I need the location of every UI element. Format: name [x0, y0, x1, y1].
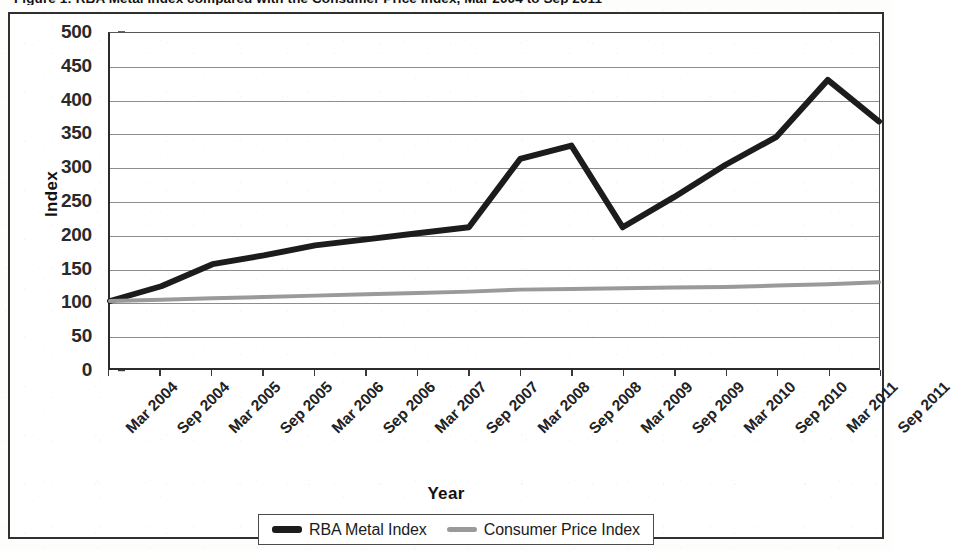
- x-tick-mark: [314, 370, 315, 376]
- x-tick-label: Sep 2007: [483, 378, 543, 438]
- x-tick-label: Mar 2011: [842, 378, 900, 436]
- x-axis: Mar 2004Sep 2004Mar 2005Sep 2005Mar 2006…: [10, 14, 902, 134]
- x-tick-mark: [365, 370, 366, 376]
- x-tick-label: Sep 2006: [380, 378, 440, 438]
- x-tick-label: Mar 2006: [328, 378, 387, 437]
- x-tick-mark: [726, 370, 727, 376]
- y-tick-label: 0: [82, 359, 92, 381]
- y-tick-label: 250: [61, 190, 92, 212]
- x-tick-mark: [829, 370, 830, 376]
- x-tick-label: Mar 2005: [225, 378, 284, 437]
- thin-gray-line-swatch: [447, 527, 477, 532]
- y-tick-label: 200: [61, 224, 92, 246]
- y-tick-label: 50: [71, 325, 92, 347]
- x-tick-label: Sep 2010: [792, 378, 852, 438]
- x-tick-mark: [674, 370, 675, 376]
- x-tick-mark: [623, 370, 624, 376]
- x-tick-mark: [262, 370, 263, 376]
- x-tick-mark: [211, 370, 212, 376]
- chart-legend: RBA Metal IndexConsumer Price Index: [258, 514, 654, 545]
- x-tick-label: Mar 2010: [740, 378, 799, 437]
- legend-entry[interactable]: Consumer Price Index: [447, 521, 640, 539]
- x-tick-mark: [880, 370, 881, 376]
- x-tick-mark: [468, 370, 469, 376]
- x-tick-label: Mar 2009: [637, 378, 696, 437]
- x-tick-label: Mar 2008: [534, 378, 593, 437]
- x-tick-mark: [571, 370, 572, 376]
- figure-caption: Figure 1: RBA Metal Index compared with …: [14, 0, 874, 5]
- x-tick-mark: [159, 370, 160, 376]
- legend-label: Consumer Price Index: [484, 521, 640, 539]
- x-tick-mark: [777, 370, 778, 376]
- y-tick-label: 300: [61, 156, 92, 178]
- x-axis-title: Year: [10, 484, 882, 504]
- y-tick-label: 100: [61, 291, 92, 313]
- x-tick-label: Sep 2004: [174, 378, 234, 438]
- x-tick-label: Sep 2011: [894, 378, 953, 437]
- x-tick-label: Mar 2007: [431, 378, 490, 437]
- y-axis-title: Index: [42, 134, 62, 254]
- x-tick-mark: [108, 370, 109, 376]
- series-line: [110, 282, 879, 301]
- y-tick-label: 150: [61, 258, 92, 280]
- x-tick-mark: [417, 370, 418, 376]
- x-tick-label: Sep 2005: [277, 378, 337, 438]
- chart-frame: 500450400350300250200150100500 Index Mar…: [8, 12, 884, 539]
- x-tick-label: Sep 2009: [689, 378, 749, 438]
- x-tick-label: Sep 2008: [586, 378, 646, 438]
- legend-entry[interactable]: RBA Metal Index: [272, 521, 427, 539]
- thick-dark-line-swatch: [272, 526, 302, 533]
- x-tick-label: Mar 2004: [122, 378, 181, 437]
- x-tick-mark: [520, 370, 521, 376]
- legend-label: RBA Metal Index: [309, 521, 427, 539]
